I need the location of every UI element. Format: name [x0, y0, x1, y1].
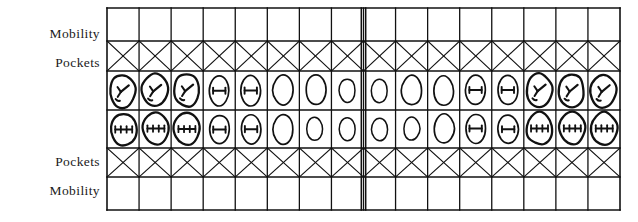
- tooth-premolar[interactable]: [241, 75, 261, 106]
- tooth-outline: [273, 75, 294, 105]
- mobility-cell[interactable]: [557, 178, 587, 209]
- pocket-cell[interactable]: [556, 148, 588, 177]
- mobility-cell[interactable]: [236, 9, 266, 40]
- tooth-outline: [404, 117, 420, 140]
- mobility-cell[interactable]: [460, 9, 490, 40]
- tooth-incisor[interactable]: [401, 75, 421, 104]
- tooth-molar[interactable]: [173, 113, 199, 145]
- tooth-incisor[interactable]: [371, 79, 387, 102]
- mobility-cell[interactable]: [589, 178, 619, 209]
- tooth-molar[interactable]: [143, 112, 169, 144]
- tooth-premolar[interactable]: [498, 75, 518, 104]
- tooth-molar[interactable]: [111, 114, 137, 145]
- pocket-cell[interactable]: [524, 41, 556, 71]
- pocket-cell[interactable]: [364, 148, 396, 177]
- pocket-cell[interactable]: [107, 41, 139, 71]
- mobility-cell[interactable]: [428, 178, 458, 209]
- mobility-cell[interactable]: [396, 178, 426, 209]
- mobility-cell[interactable]: [396, 9, 426, 40]
- mobility-cell[interactable]: [236, 178, 266, 209]
- tooth-molar[interactable]: [174, 74, 199, 107]
- mobility-cell[interactable]: [172, 178, 202, 209]
- pocket-cell[interactable]: [396, 41, 428, 71]
- tooth-molar[interactable]: [590, 75, 616, 108]
- tooth-canine[interactable]: [273, 115, 293, 145]
- tooth-canine[interactable]: [273, 75, 294, 105]
- tooth-molar[interactable]: [527, 112, 553, 145]
- mobility-cell[interactable]: [108, 178, 138, 209]
- mobility-cell[interactable]: [364, 178, 394, 209]
- mobility-cell[interactable]: [589, 9, 619, 40]
- pocket-cell[interactable]: [171, 148, 203, 177]
- mobility-cell[interactable]: [108, 9, 138, 40]
- mobility-cell[interactable]: [300, 178, 330, 209]
- pocket-cell[interactable]: [428, 148, 460, 177]
- pocket-cell[interactable]: [267, 41, 299, 71]
- pocket-cell[interactable]: [556, 41, 588, 71]
- pocket-cell[interactable]: [492, 148, 524, 177]
- pocket-cell[interactable]: [588, 148, 620, 177]
- pocket-cell[interactable]: [331, 41, 363, 71]
- pocket-cell[interactable]: [203, 41, 235, 71]
- tooth-incisor[interactable]: [404, 117, 420, 140]
- mobility-cell[interactable]: [525, 9, 555, 40]
- pocket-cell[interactable]: [460, 148, 492, 177]
- pocket-cell[interactable]: [364, 41, 396, 71]
- tooth-premolar[interactable]: [210, 116, 230, 144]
- tooth-canine[interactable]: [434, 76, 454, 105]
- pocket-cell[interactable]: [235, 41, 267, 71]
- tooth-incisor[interactable]: [371, 118, 387, 141]
- pocket-cell[interactable]: [107, 148, 139, 177]
- mobility-cell[interactable]: [493, 9, 523, 40]
- mobility-cell[interactable]: [332, 178, 362, 209]
- tooth-incisor[interactable]: [306, 75, 326, 105]
- mobility-cell[interactable]: [204, 9, 234, 40]
- tooth-molar[interactable]: [527, 73, 553, 107]
- tooth-molar[interactable]: [141, 73, 168, 106]
- pocket-cell[interactable]: [235, 148, 267, 177]
- tooth-molar[interactable]: [559, 75, 584, 108]
- pocket-cell[interactable]: [428, 41, 460, 71]
- tooth-incisor[interactable]: [339, 79, 355, 102]
- mobility-cell[interactable]: [332, 9, 362, 40]
- pocket-cell[interactable]: [396, 148, 428, 177]
- pocket-cell[interactable]: [139, 41, 171, 71]
- pocket-cell[interactable]: [460, 41, 492, 71]
- pocket-cell[interactable]: [492, 41, 524, 71]
- mobility-cell[interactable]: [525, 178, 555, 209]
- tooth-molar[interactable]: [591, 112, 618, 145]
- tooth-molar[interactable]: [110, 75, 135, 108]
- mobility-cell[interactable]: [493, 178, 523, 209]
- tooth-premolar[interactable]: [465, 75, 485, 104]
- tooth-incisor[interactable]: [307, 117, 323, 140]
- mobility-cell[interactable]: [172, 9, 202, 40]
- pocket-cell[interactable]: [299, 148, 331, 177]
- tooth-premolar[interactable]: [209, 76, 229, 106]
- mobility-cell[interactable]: [364, 9, 394, 40]
- mobility-cell[interactable]: [557, 9, 587, 40]
- pocket-cell[interactable]: [524, 148, 556, 177]
- tooth-outline: [306, 75, 326, 105]
- tooth-molar[interactable]: [559, 112, 585, 145]
- tooth-premolar[interactable]: [498, 115, 519, 143]
- mobility-cell[interactable]: [460, 178, 490, 209]
- mobility-cell[interactable]: [268, 9, 298, 40]
- pocket-cell[interactable]: [171, 41, 203, 71]
- mobility-cell[interactable]: [140, 178, 170, 209]
- pocket-cell[interactable]: [299, 41, 331, 71]
- mobility-cell[interactable]: [204, 178, 234, 209]
- tooth-incisor[interactable]: [339, 118, 355, 141]
- pocket-cell[interactable]: [139, 148, 171, 177]
- tooth-outline: [434, 76, 454, 105]
- mobility-cell[interactable]: [428, 9, 458, 40]
- tooth-canine[interactable]: [434, 114, 454, 143]
- pocket-cell[interactable]: [203, 148, 235, 177]
- pocket-cell[interactable]: [588, 41, 620, 71]
- pocket-cell[interactable]: [331, 148, 363, 177]
- tooth-premolar[interactable]: [466, 115, 486, 144]
- pocket-cell[interactable]: [267, 148, 299, 177]
- mobility-cell[interactable]: [300, 9, 330, 40]
- mobility-cell[interactable]: [140, 9, 170, 40]
- mobility-cell[interactable]: [268, 178, 298, 209]
- tooth-premolar[interactable]: [241, 115, 261, 144]
